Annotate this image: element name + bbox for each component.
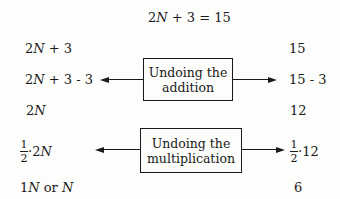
arrow-left-line — [100, 149, 140, 150]
arrow-left-head-icon — [95, 147, 104, 153]
row2-right: 15 - 3 — [289, 73, 326, 86]
box-line2: multiplication — [141, 151, 241, 166]
or-text: or — [40, 180, 62, 195]
box-line2: addition — [144, 80, 232, 95]
rest: ·12 — [298, 145, 319, 158]
row5-right: 6 — [294, 181, 302, 194]
fraction-half: 12 — [290, 139, 298, 164]
var: N — [28, 180, 39, 195]
denominator: 2 — [21, 153, 28, 164]
box-line1: Undoing the — [144, 65, 232, 80]
row4-right: 12·12 — [290, 139, 319, 164]
rest: + 3 - 3 — [45, 72, 93, 87]
fraction-half: 12 — [20, 139, 28, 164]
undo-multiplication-box: Undoing the multiplication — [140, 128, 242, 173]
row1-left: 2N + 3 — [25, 42, 72, 55]
row4-left: 12·2N — [20, 139, 52, 164]
arrow-left-line — [104, 79, 143, 80]
var: N — [33, 41, 44, 56]
var: N — [33, 72, 44, 87]
rest: + 3 — [45, 41, 72, 56]
var: N — [34, 103, 45, 118]
numerator: 1 — [291, 139, 298, 150]
arrow-left-head-icon — [100, 77, 109, 83]
numerator: 1 — [21, 139, 28, 150]
row5-left: 1N or N — [20, 181, 73, 194]
arrow-right-head-icon — [268, 77, 277, 83]
var: N — [62, 180, 73, 195]
title-var: N — [156, 10, 167, 25]
title-rest: + 3 = 15 — [168, 10, 231, 25]
row1-right: 15 — [289, 42, 306, 55]
arrow-right-line — [233, 79, 270, 80]
row3-left: 2N — [26, 104, 46, 117]
denominator: 2 — [291, 153, 298, 164]
row2-left: 2N + 3 - 3 — [25, 73, 93, 86]
arrow-right-line — [242, 149, 278, 150]
arrow-right-head-icon — [276, 147, 285, 153]
box-line1: Undoing the — [141, 136, 241, 151]
var: N — [40, 145, 51, 158]
row3-right: 12 — [290, 104, 307, 117]
undo-addition-box: Undoing the addition — [143, 58, 233, 101]
rest: ·2 — [28, 145, 40, 158]
equation-title: 2N + 3 = 15 — [148, 11, 231, 24]
